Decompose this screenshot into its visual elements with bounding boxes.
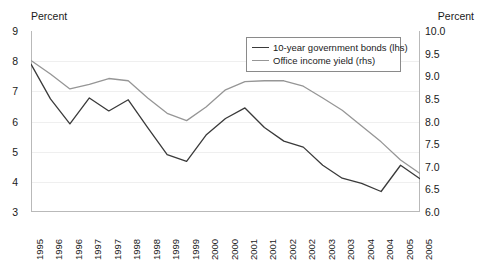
x-axis-tick-label: 1997 (93, 239, 103, 260)
x-axis-tick-label: 2003 (327, 239, 337, 260)
x-axis-tick-label: 2000 (210, 239, 220, 260)
right-axis-tick-label: 10.0 (425, 26, 445, 37)
line-office-income-yield (31, 60, 420, 173)
left-axis-tick-label: 3 (12, 207, 18, 218)
chart-legend: 10-year government bonds (lhs) Office in… (246, 37, 401, 72)
x-axis-tick-label: 2003 (346, 239, 356, 260)
x-axis-tick-label: 1999 (171, 239, 181, 260)
left-axis-tick-label: 8 (12, 56, 18, 67)
x-axis-tick-label: 2002 (288, 239, 298, 260)
x-axis-tick-label: 1996 (74, 239, 84, 260)
right-axis-tick-label: 7.0 (425, 162, 440, 173)
x-axis-tick-label: 1995 (35, 239, 45, 260)
x-axis-tick-label: 2004 (385, 239, 395, 260)
legend-item: Office income yield (rhs) (252, 54, 395, 67)
right-axis-tick-label: 6.0 (425, 207, 440, 218)
left-axis-tick-label: 5 (12, 147, 18, 158)
legend-label-office-yield: Office income yield (rhs) (273, 55, 375, 66)
legend-swatch-bonds (252, 47, 269, 48)
right-axis-title: Percent (438, 10, 474, 22)
x-axis-tick-label: 2005 (424, 239, 434, 260)
x-axis-tick-label: 1999 (191, 239, 201, 260)
legend-swatch-office-yield (252, 60, 269, 61)
left-axis-tick-label: 9 (12, 26, 18, 37)
legend-label-bonds: 10-year government bonds (lhs) (273, 42, 408, 53)
left-axis-tick-label: 4 (12, 177, 18, 188)
x-axis-tick-label: 2001 (268, 239, 278, 260)
x-axis-tick-label: 2000 (230, 239, 240, 260)
right-axis-tick-label: 6.5 (425, 184, 440, 195)
line-government-bonds (31, 64, 420, 191)
x-axis-tick-label: 2002 (307, 239, 317, 260)
right-axis-tick-label: 9.0 (425, 71, 440, 82)
right-axis-tick-label: 8.5 (425, 94, 440, 105)
left-axis-tick-label: 6 (12, 117, 18, 128)
x-axis-tick-label: 1996 (54, 239, 64, 260)
x-axis-tick-label: 1997 (113, 239, 123, 260)
right-axis-tick-label: 7.5 (425, 139, 440, 150)
right-axis-tick-label: 8.0 (425, 117, 440, 128)
left-axis-title: Percent (31, 10, 67, 22)
chart-figure: Percent Percent 3456789 6.06.57.07.58.08… (0, 0, 477, 267)
x-axis-tick-label: 2001 (249, 239, 259, 260)
right-axis-tick-label: 9.5 (425, 49, 440, 60)
x-axis-tick-label: 2005 (405, 239, 415, 260)
x-axis-tick-label: 1998 (132, 239, 142, 260)
x-axis-tick-label: 2004 (366, 239, 376, 260)
left-axis-tick-label: 7 (12, 86, 18, 97)
x-axis-tick-label: 1998 (152, 239, 162, 260)
legend-item: 10-year government bonds (lhs) (252, 41, 395, 54)
